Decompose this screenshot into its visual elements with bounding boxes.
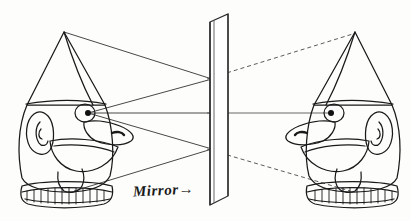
cone-hat-curve xyxy=(64,32,93,105)
ear xyxy=(27,112,54,154)
mirror-label-arrow-icon: → xyxy=(178,180,194,197)
cone-hat xyxy=(27,32,105,105)
hat-brim xyxy=(26,100,106,104)
ear xyxy=(365,112,392,154)
head xyxy=(19,105,113,192)
nostril xyxy=(295,132,307,135)
mouth xyxy=(301,139,369,172)
mirror-label: Mirror→ xyxy=(133,180,195,200)
mirror-face[interactable] xyxy=(210,14,228,205)
mirror-reflection-diagram: Mirror→ xyxy=(0,0,410,221)
pupil xyxy=(328,110,334,116)
mirror-plate[interactable] xyxy=(210,14,228,205)
diagram-canvas xyxy=(0,0,410,221)
head xyxy=(306,105,400,192)
nose xyxy=(286,121,335,145)
hat-brim xyxy=(313,100,393,104)
mirror-label-text: Mirror xyxy=(133,181,179,199)
virtual-figure xyxy=(286,32,400,208)
virtual-ray-upper xyxy=(207,33,356,79)
real-figure xyxy=(19,32,133,208)
pupil xyxy=(85,110,91,116)
cone-hat-curve xyxy=(326,32,355,105)
nostril xyxy=(112,132,124,135)
ruffled-collar xyxy=(21,182,113,208)
mouth-inner xyxy=(305,145,365,152)
ruffled-collar xyxy=(306,182,398,208)
mouth xyxy=(50,139,118,172)
cone-hat xyxy=(314,32,392,105)
mouth-inner xyxy=(54,145,114,152)
